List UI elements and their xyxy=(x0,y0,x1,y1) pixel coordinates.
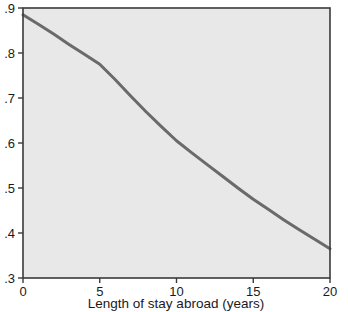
plot-panel xyxy=(23,8,330,278)
y-tick-label-.9: .9 xyxy=(4,1,15,16)
y-tick-label-.8: .8 xyxy=(4,46,15,61)
y-tick-label-.6: .6 xyxy=(4,136,15,151)
y-tick-label-.7: .7 xyxy=(4,91,15,106)
y-tick-label-.3: .3 xyxy=(4,271,15,286)
figure-container: 05101520 .3.4.5.6.7.8.9 Length of stay a… xyxy=(0,0,348,312)
x-tick-label-20: 20 xyxy=(323,284,337,299)
chart-canvas: 05101520 .3.4.5.6.7.8.9 Length of stay a… xyxy=(0,0,348,312)
y-axis-tick-labels: .3.4.5.6.7.8.9 xyxy=(4,1,15,286)
y-tick-label-.4: .4 xyxy=(4,226,15,241)
y-tick-label-.5: .5 xyxy=(4,181,15,196)
x-axis-title: Length of stay abroad (years) xyxy=(88,296,264,311)
x-tick-label-0: 0 xyxy=(19,284,26,299)
